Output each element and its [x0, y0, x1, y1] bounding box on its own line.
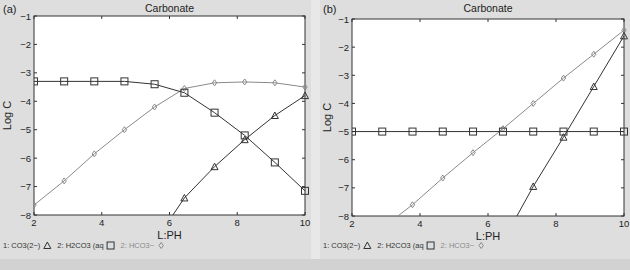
- legend-label: 1: CO3(2−): [323, 241, 361, 250]
- x-tick-label: 8: [235, 217, 240, 228]
- x-tick-label: 10: [619, 218, 630, 229]
- x-tick-label: 4: [417, 218, 422, 229]
- legend-marker-triangle: [364, 242, 371, 249]
- y-tick-label: −6: [20, 153, 31, 164]
- y-tick-label: −5: [20, 124, 31, 135]
- chart-canvas: (a)Carbonate−1−2−3−4−5−6−7−8246810L:PHLo…: [0, 0, 630, 270]
- chart-a: (a)Carbonate−1−2−3−4−5−6−7−8246810L:PHLo…: [1, 2, 310, 250]
- y-tick-label: −8: [338, 211, 349, 222]
- y-axis-label: Log C: [1, 101, 13, 130]
- panel-label: (b): [323, 3, 336, 15]
- legend-label: 2: H2CO3 (aq: [57, 241, 103, 250]
- x-tick-label: 8: [553, 218, 558, 229]
- y-tick-label: −1: [20, 11, 31, 22]
- legend-label: 2: HCO3−: [121, 241, 155, 250]
- chart-b: (b)Carbonate−1−2−3−4−5−6−7−8246810L:PHLo…: [321, 2, 629, 250]
- y-axis-label: Log C: [321, 103, 333, 132]
- legend-marker-square: [107, 242, 114, 249]
- x-tick-label: 6: [485, 218, 490, 229]
- panel-label: (a): [3, 3, 16, 15]
- x-tick-label: 10: [300, 217, 311, 228]
- legend-marker-diamond: [159, 243, 163, 249]
- y-tick-label: −4: [338, 98, 349, 109]
- plot-area: [34, 16, 305, 215]
- y-tick-label: −7: [20, 181, 31, 192]
- y-tick-label: −5: [338, 126, 349, 137]
- legend-label: 1: CO3(2−): [3, 241, 41, 250]
- y-tick-label: −1: [338, 14, 349, 25]
- y-tick-label: −6: [338, 154, 349, 165]
- y-tick-label: −7: [338, 182, 349, 193]
- y-tick-label: −3: [20, 67, 31, 78]
- x-axis-label: L:PH: [476, 230, 501, 242]
- x-tick-label: 2: [31, 217, 36, 228]
- legend-label: 2: HCO3−: [441, 241, 475, 250]
- chart-title: Carbonate: [463, 2, 512, 14]
- y-tick-label: −2: [20, 39, 31, 50]
- chart-title: Carbonate: [145, 2, 194, 14]
- y-tick-label: −4: [20, 96, 31, 107]
- x-axis-label: L:PH: [157, 229, 182, 241]
- y-tick-label: −2: [338, 42, 349, 53]
- legend-marker-diamond: [479, 243, 483, 249]
- legend-label: 2: H2CO3 (aq: [377, 241, 423, 250]
- y-tick-label: −3: [338, 70, 349, 81]
- legend-marker-square: [427, 242, 434, 249]
- legend-marker-triangle: [44, 242, 51, 249]
- plot-area: [352, 19, 624, 216]
- y-tick-label: −8: [20, 210, 31, 221]
- x-tick-label: 4: [99, 217, 104, 228]
- x-tick-label: 6: [167, 217, 172, 228]
- x-tick-label: 2: [349, 218, 354, 229]
